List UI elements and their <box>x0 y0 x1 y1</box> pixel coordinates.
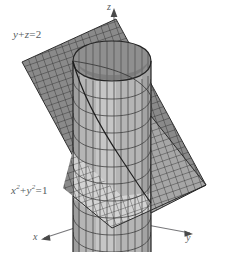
plane-eq-rhs: 2 <box>36 28 42 40</box>
z-axis-label: z <box>107 1 111 12</box>
y-axis-label: y <box>186 232 190 243</box>
figure-canvas: y+z=2 x2+y2=1 z x y <box>0 0 229 264</box>
plane-equation-label: y+z=2 <box>13 28 42 40</box>
z-arrowhead-icon <box>111 8 118 17</box>
plane-surface-right <box>151 116 206 213</box>
x-arrowhead-icon <box>41 235 51 241</box>
x-axis-label: x <box>33 231 37 242</box>
cyl-eq-rhs: 1 <box>42 184 48 196</box>
plane-surface-left-wedge <box>63 150 73 196</box>
cylinder-equation-label: x2+y2=1 <box>11 183 48 196</box>
